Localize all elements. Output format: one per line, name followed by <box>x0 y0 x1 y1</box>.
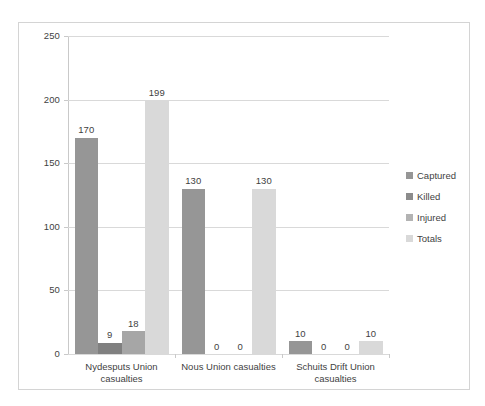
bar-value-label: 130 <box>185 176 201 186</box>
x-axis-category-label: Nous Union casualties <box>175 361 282 373</box>
y-axis-tick-label: 50 <box>49 286 60 296</box>
plot-area: 250200150100500 170918199Nydesputs Union… <box>68 36 389 354</box>
bar-group: 13000130Nous Union casualties <box>175 36 282 354</box>
bar-value-label: 0 <box>214 342 219 352</box>
bar-value-label: 10 <box>295 329 306 339</box>
bar-value-label: 9 <box>107 330 112 340</box>
legend-item-label: Killed <box>417 192 440 202</box>
bar-value-label: 0 <box>345 342 350 352</box>
x-axis-category-label: Schuits Drift Union casualties <box>282 361 389 385</box>
y-axis-tick-label: 0 <box>55 349 60 359</box>
legend-item-injured[interactable]: Injured <box>406 207 466 228</box>
bar-value-label: 0 <box>238 342 243 352</box>
legend-swatch-icon <box>406 214 413 221</box>
gridline <box>68 354 389 355</box>
bar[interactable] <box>98 343 122 354</box>
chart-frame: 250200150100500 170918199Nydesputs Union… <box>18 22 470 390</box>
bar-group: 100010Schuits Drift Union casualties <box>282 36 389 354</box>
legend-swatch-icon <box>406 193 413 200</box>
y-axis-tick-label: 150 <box>44 158 60 168</box>
x-axis-tick <box>389 354 390 358</box>
bar[interactable] <box>289 341 313 354</box>
y-axis-tick-label: 200 <box>44 95 60 105</box>
legend-item-label: Totals <box>417 234 442 244</box>
chart-legend: CapturedKilledInjuredTotals <box>406 165 466 249</box>
legend-item-label: Injured <box>417 213 446 223</box>
bar-value-label: 18 <box>128 319 139 329</box>
bar-value-label: 130 <box>256 176 272 186</box>
x-axis-tick <box>175 354 176 358</box>
bar[interactable] <box>75 138 99 354</box>
legend-item-label: Captured <box>417 171 456 181</box>
bar[interactable] <box>122 331 146 354</box>
bar[interactable] <box>359 341 383 354</box>
y-axis-tick-label: 250 <box>44 31 60 41</box>
bar-value-label: 10 <box>365 329 376 339</box>
legend-item-totals[interactable]: Totals <box>406 228 466 249</box>
legend-swatch-icon <box>406 172 413 179</box>
bar-group: 170918199Nydesputs Union casualties <box>68 36 175 354</box>
bar-value-label: 0 <box>321 342 326 352</box>
x-axis-tick <box>282 354 283 358</box>
x-axis-category-label: Nydesputs Union casualties <box>68 361 175 385</box>
legend-item-captured[interactable]: Captured <box>406 165 466 186</box>
bar[interactable] <box>182 189 206 354</box>
bar-value-label: 199 <box>149 88 165 98</box>
legend-swatch-icon <box>406 235 413 242</box>
bar[interactable] <box>252 189 276 354</box>
y-axis-tick-label: 100 <box>44 222 60 232</box>
bar-value-label: 170 <box>78 125 94 135</box>
y-axis-tick <box>64 354 68 355</box>
legend-item-killed[interactable]: Killed <box>406 186 466 207</box>
bar[interactable] <box>145 101 169 354</box>
